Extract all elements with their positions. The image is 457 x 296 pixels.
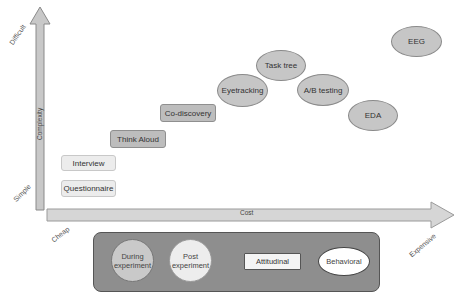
legend-panel: During experiment Post experiment Attitu… xyxy=(93,232,380,292)
x-axis-high-label: Expensive xyxy=(408,232,437,258)
method-questionnaire: Questionnaire xyxy=(61,180,116,197)
method-ab-testing: A/B testing xyxy=(297,74,349,106)
legend-post-experiment: Post experiment xyxy=(169,239,212,282)
method-interview: Interview xyxy=(61,155,116,171)
y-axis-label: Complexity xyxy=(36,108,43,140)
legend-attitudinal: Attitudinal xyxy=(244,253,301,270)
legend-behavioral: Behavioral xyxy=(318,247,370,276)
method-eda: EDA xyxy=(348,100,398,131)
method-task-tree: Task tree xyxy=(256,50,306,81)
method-co-discovery: Co-discovery xyxy=(160,104,216,122)
x-axis-label: Cost xyxy=(240,209,253,216)
method-eeg: EEG xyxy=(391,26,442,57)
method-eyetracking: Eyetracking xyxy=(217,74,268,107)
method-think-aloud: Think Aloud xyxy=(110,130,166,148)
legend-during-experiment: During experiment xyxy=(111,239,154,282)
y-axis-high-label: Difficult xyxy=(8,23,27,46)
